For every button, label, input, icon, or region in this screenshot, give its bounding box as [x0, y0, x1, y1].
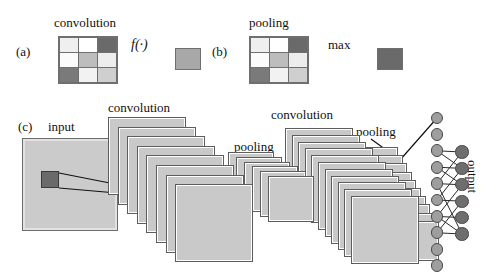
hidden-node-8 — [431, 243, 444, 256]
hidden-node-3 — [431, 161, 444, 174]
pool1-plate-5 — [268, 176, 314, 222]
output-node-5 — [455, 227, 468, 240]
figure-canvas: (a) convolution f(·) (b) pooling max (c)… — [0, 0, 504, 278]
output-node-4 — [455, 211, 468, 224]
hidden-node-6 — [431, 210, 444, 223]
output-node-2 — [455, 178, 468, 191]
hidden-node-1 — [431, 128, 444, 141]
output-node-0 — [455, 145, 468, 158]
output-node-1 — [455, 162, 468, 175]
conv2-plate-10 — [351, 196, 419, 264]
output-node-3 — [455, 195, 468, 208]
conv1-plate-7 — [175, 184, 253, 262]
